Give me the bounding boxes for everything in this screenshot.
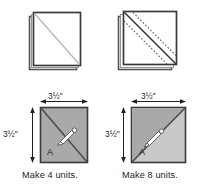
panel-top-right <box>119 12 177 70</box>
unit-letter-right: A <box>139 147 145 157</box>
figure-canvas: 3½" 3½" 3½" 3½" A A Make 4 units. Make 8… <box>0 0 200 189</box>
width-label-right: 3½" <box>141 91 156 101</box>
caption-make-8: Make 8 units. <box>100 170 200 180</box>
unit-letter-left: A <box>47 147 53 157</box>
width-label-left: 3½" <box>48 91 63 101</box>
height-dimension-arrow-right <box>121 107 126 163</box>
height-label-left: 3½" <box>3 129 18 139</box>
height-label-right: 3½" <box>105 129 120 139</box>
quilting-diagram <box>0 0 200 189</box>
height-dimension-arrow-left <box>30 107 35 163</box>
width-dimension-arrow-right <box>131 99 186 104</box>
panel-bottom-left <box>30 99 88 163</box>
caption-make-4: Make 4 units. <box>0 170 100 180</box>
panel-bottom-right <box>121 99 186 163</box>
panel-top-left <box>30 13 81 70</box>
